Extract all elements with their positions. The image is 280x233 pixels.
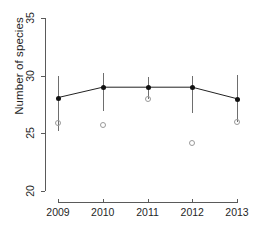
- x-tick-label-2012: 2012: [174, 206, 210, 218]
- data-point-2012: [190, 85, 195, 90]
- y-tick-35: [41, 18, 45, 19]
- x-tick-label-2013: 2013: [219, 206, 255, 218]
- x-tick-2009: [58, 199, 59, 202]
- y-tick-label-20: 20: [24, 181, 36, 201]
- error-bar-2012: [192, 76, 193, 113]
- data-point-2009: [56, 96, 61, 101]
- y-tick-25: [41, 133, 45, 134]
- x-tick-label-2010: 2010: [85, 206, 121, 218]
- y-tick-label-30: 30: [24, 66, 36, 86]
- y-tick-20: [41, 191, 45, 192]
- y-tick-label-35: 35: [24, 8, 36, 28]
- x-tick-label-2009: 2009: [40, 206, 76, 218]
- data-point-2010: [101, 85, 106, 90]
- observed-point-2009: [55, 120, 61, 126]
- observed-point-2011: [145, 96, 151, 102]
- y-tick-label-25: 25: [24, 123, 36, 143]
- chart-container: Number of species 20253035 2009201020112…: [0, 0, 280, 233]
- series-line-path: [0, 0, 280, 233]
- x-axis-line: [58, 202, 238, 203]
- x-tick-2012: [192, 199, 193, 202]
- observed-point-2012: [189, 140, 195, 146]
- data-point-2013: [235, 97, 240, 102]
- data-point-2011: [146, 85, 151, 90]
- observed-point-2010: [100, 122, 106, 128]
- y-axis-line: [45, 18, 46, 191]
- x-tick-2010: [103, 199, 104, 202]
- y-tick-30: [41, 76, 45, 77]
- observed-point-2013: [234, 119, 240, 125]
- x-tick-2013: [237, 199, 238, 202]
- x-tick-label-2011: 2011: [130, 206, 166, 218]
- x-tick-2011: [148, 199, 149, 202]
- error-bar-2010: [103, 73, 104, 111]
